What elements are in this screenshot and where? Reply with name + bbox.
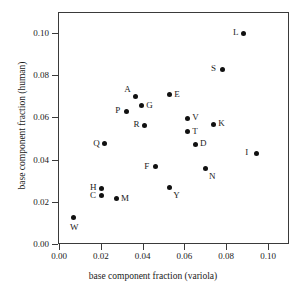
data-point-label: K xyxy=(218,119,225,128)
scatter-chart-figure: 0.000.020.040.060.080.10 0.000.020.040.0… xyxy=(0,0,306,296)
data-point xyxy=(211,122,216,127)
y-axis-title: base component fraction (human) xyxy=(17,36,28,216)
data-point-label: E xyxy=(174,90,180,99)
data-point xyxy=(220,67,225,72)
data-point-label: N xyxy=(209,172,216,181)
data-point xyxy=(71,215,76,220)
y-tick-mark xyxy=(52,75,58,76)
data-point-label: L xyxy=(233,28,239,37)
x-tick-mark xyxy=(59,244,60,250)
data-point xyxy=(124,109,129,114)
data-point xyxy=(193,142,198,147)
data-point-label: S xyxy=(211,64,216,73)
data-point xyxy=(185,116,190,121)
data-point-label: G xyxy=(146,101,153,110)
data-point-label: V xyxy=(192,113,199,122)
data-point-label: P xyxy=(115,106,120,115)
data-point-label: D xyxy=(200,139,207,148)
y-tick-label: 0.00 xyxy=(15,240,49,249)
data-point-label: A xyxy=(124,85,131,94)
data-point xyxy=(139,103,144,108)
y-tick-mark xyxy=(52,33,58,34)
plot-area xyxy=(58,12,289,244)
data-point xyxy=(167,185,172,190)
x-tick-label: 0.00 xyxy=(39,252,79,261)
data-point-label: C xyxy=(90,191,96,200)
data-point-label: Q xyxy=(93,139,100,148)
x-tick-mark xyxy=(101,244,102,250)
y-tick-mark xyxy=(52,117,58,118)
data-point xyxy=(99,186,104,191)
data-point xyxy=(153,164,158,169)
x-tick-label: 0.10 xyxy=(248,252,288,261)
x-axis-title: base component fraction (variola) xyxy=(0,271,306,282)
x-tick-mark xyxy=(226,244,227,250)
x-tick-mark xyxy=(184,244,185,250)
x-tick-label: 0.04 xyxy=(123,252,163,261)
x-tick-mark xyxy=(143,244,144,250)
data-point-label: T xyxy=(192,127,198,136)
data-point xyxy=(133,94,138,99)
data-point xyxy=(254,151,259,156)
y-tick-mark xyxy=(52,244,58,245)
data-point xyxy=(167,92,172,97)
data-point-label: M xyxy=(121,194,129,203)
y-tick-mark xyxy=(52,160,58,161)
data-point xyxy=(99,193,104,198)
data-point-label: I xyxy=(245,148,248,157)
x-tick-label: 0.08 xyxy=(206,252,246,261)
data-point-label: Y xyxy=(173,191,180,200)
data-point xyxy=(142,123,147,128)
data-point-label: W xyxy=(70,223,79,232)
data-point-label: F xyxy=(144,162,149,171)
data-point xyxy=(203,166,208,171)
x-tick-label: 0.02 xyxy=(81,252,121,261)
x-tick-mark xyxy=(268,244,269,250)
y-tick-mark xyxy=(52,202,58,203)
data-point xyxy=(114,196,119,201)
x-tick-label: 0.06 xyxy=(164,252,204,261)
data-point-label: R xyxy=(133,120,139,129)
